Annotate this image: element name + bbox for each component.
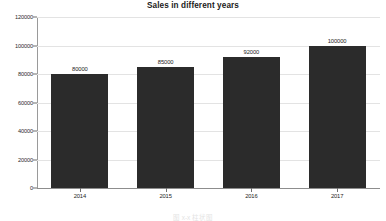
bar[interactable] <box>51 74 108 188</box>
y-axis-tick-label: 60000 <box>0 100 33 106</box>
chart-title: Sales in different years <box>0 1 386 10</box>
x-axis-tick-mark <box>166 188 167 192</box>
bar-value-label: 85000 <box>137 59 194 65</box>
y-axis-tick-label: 80000 <box>0 71 33 77</box>
bar-chart-figure: Sales in different years 020000400006000… <box>0 0 386 221</box>
y-axis-tick-label: 20000 <box>0 157 33 163</box>
bar-value-label: 80000 <box>51 66 108 72</box>
x-axis-tick-mark <box>337 188 338 192</box>
bar[interactable] <box>309 46 366 189</box>
x-axis-tick-label: 2014 <box>60 193 100 199</box>
x-axis-tick-mark <box>80 188 81 192</box>
y-axis-tick-label: 40000 <box>0 128 33 134</box>
x-axis-tick-mark <box>251 188 252 192</box>
x-axis-tick-label: 2016 <box>231 193 271 199</box>
figure-caption: 图 x-x 柱状图 <box>0 212 386 221</box>
bar-value-label: 100000 <box>309 38 366 44</box>
y-axis: 020000400006000080000100000120000 <box>0 0 33 221</box>
gridline <box>37 17 380 18</box>
y-axis-tick-label: 100000 <box>0 43 33 49</box>
bar[interactable] <box>223 57 280 188</box>
x-axis-tick-label: 2015 <box>146 193 186 199</box>
y-axis-tick-label: 0 <box>0 185 33 191</box>
gridline <box>37 188 380 189</box>
bar-value-label: 92000 <box>223 49 280 55</box>
bar[interactable] <box>137 67 194 188</box>
y-axis-tick-label: 120000 <box>0 14 33 20</box>
x-axis-tick-label: 2017 <box>317 193 357 199</box>
